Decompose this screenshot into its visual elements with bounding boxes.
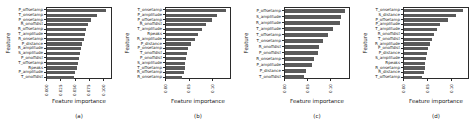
importance-bar [166, 57, 186, 60]
y-tick-mark [44, 33, 46, 34]
y-tick-mark [401, 43, 403, 44]
x-tick-label: 0.000 [44, 84, 49, 95]
x-axis-label: Feature importance [397, 98, 475, 104]
importance-bar [166, 38, 195, 41]
y-tick-mark [163, 53, 165, 54]
y-tick-mark [163, 43, 165, 44]
importance-bar [47, 14, 97, 17]
y-tick-mark [44, 19, 46, 20]
importance-bar [166, 71, 184, 74]
y-tick-mark [44, 14, 46, 15]
importance-bar [404, 14, 456, 17]
y-tick-mark [44, 43, 46, 44]
importance-bar [47, 71, 75, 74]
y-tick-mark [282, 58, 284, 59]
subplot-caption: (b) [159, 113, 237, 119]
category-label: T_onsetamp [238, 38, 281, 43]
x-tick-mark [403, 79, 404, 81]
y-tick-mark [44, 48, 46, 49]
y-tick-mark [401, 24, 403, 25]
feature-importance-chart-c: Feature Feature importance (c) P_offseta… [238, 0, 357, 123]
category-label: P_onoffdist [238, 50, 281, 55]
importance-bar [47, 23, 88, 26]
x-tick-label: 0.075 [86, 84, 91, 95]
category-label: T_offsetamp [357, 74, 400, 79]
subplot-caption: (a) [40, 113, 118, 119]
y-tick-mark [163, 72, 165, 73]
importance-bar [47, 66, 77, 69]
x-tick-mark [284, 79, 285, 81]
importance-bar [285, 39, 323, 42]
x-tick-label: 0.00 [282, 84, 287, 93]
x-tick-label: 0.05 [425, 84, 430, 93]
y-tick-mark [282, 16, 284, 17]
importance-bar [285, 45, 319, 48]
importance-bar [47, 57, 79, 60]
importance-bar [404, 71, 424, 74]
importance-bar [166, 28, 202, 31]
y-tick-mark [282, 46, 284, 47]
y-tick-mark [44, 77, 46, 78]
x-tick-mark [89, 79, 90, 81]
y-tick-mark [401, 19, 403, 20]
y-tick-mark [401, 9, 403, 10]
importance-bar [404, 33, 434, 36]
y-tick-mark [401, 29, 403, 30]
x-tick-label: 0.025 [58, 84, 63, 95]
importance-bar [404, 42, 430, 45]
x-tick-label: 0.10 [328, 84, 333, 93]
x-tick-label: 0.100 [101, 84, 106, 95]
importance-bar [47, 18, 91, 21]
importance-bar [47, 42, 82, 45]
y-tick-mark [282, 52, 284, 53]
x-axis-label: Feature importance [278, 98, 356, 104]
plot-area [403, 7, 469, 79]
y-tick-mark [163, 77, 165, 78]
x-tick-mark [165, 79, 166, 81]
importance-bar [166, 33, 198, 36]
x-tick-mark [103, 79, 104, 81]
category-label: R_onoffdist [238, 44, 281, 49]
x-axis-label: Feature importance [159, 98, 237, 104]
y-tick-mark [401, 53, 403, 54]
x-tick-mark [75, 79, 76, 81]
y-tick-mark [163, 14, 165, 15]
y-tick-mark [282, 28, 284, 29]
category-label: S_amplitude [238, 14, 281, 19]
x-tick-mark [60, 79, 61, 81]
y-tick-mark [163, 33, 165, 34]
importance-bar [166, 52, 187, 55]
importance-bar [285, 33, 328, 36]
category-label: R_onsetamp [119, 74, 162, 79]
y-tick-mark [44, 53, 46, 54]
x-tick-mark [189, 79, 190, 81]
category-label: P_distance [238, 68, 281, 73]
importance-bar [285, 9, 345, 12]
y-tick-mark [163, 9, 165, 10]
subplot-caption: (c) [278, 113, 356, 119]
subplot-caption: (d) [397, 113, 475, 119]
feature-importance-figure: Feature Feature importance (a) P_offseta… [0, 0, 476, 123]
y-tick-mark [44, 57, 46, 58]
importance-bar [285, 75, 304, 78]
importance-bar [404, 57, 426, 60]
x-axis-label: Feature importance [40, 98, 118, 104]
feature-importance-chart-a: Feature Feature importance (a) P_offseta… [0, 0, 119, 123]
y-tick-mark [282, 64, 284, 65]
plot-area [165, 7, 231, 79]
importance-bar [404, 52, 427, 55]
y-tick-mark [282, 76, 284, 77]
category-label: P_amplitude [238, 62, 281, 67]
importance-bar [166, 62, 185, 65]
importance-bar [404, 9, 463, 12]
y-tick-mark [163, 57, 165, 58]
x-tick-mark [330, 79, 331, 81]
category-label: T_offsetamp [238, 32, 281, 37]
plot-area [46, 7, 112, 79]
y-tick-mark [401, 72, 403, 73]
category-label: T_onoffdist [0, 74, 43, 79]
feature-importance-chart-b: Feature Feature importance (b) T_onsetam… [119, 0, 238, 123]
y-tick-mark [44, 72, 46, 73]
y-tick-mark [44, 38, 46, 39]
importance-bar [404, 66, 425, 69]
